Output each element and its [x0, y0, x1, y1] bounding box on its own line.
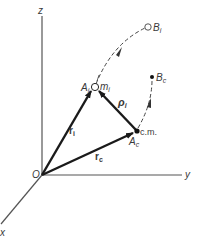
origin-label: O — [32, 169, 40, 180]
Ai-label: Ai — [80, 82, 90, 94]
diagram-canvas: z y x O Ai mi c.m. Ac Bi Bc ri rc ρi — [0, 0, 202, 238]
x-axis-label: x — [0, 227, 6, 238]
y-axis-label: y — [184, 169, 191, 180]
x-axis — [1, 175, 42, 224]
ri-label: ri — [69, 125, 75, 137]
mi-label: mi — [100, 81, 110, 93]
path-particle-to-Bi — [96, 28, 145, 84]
Bc-marker — [150, 75, 154, 79]
diagram: z y x O Ai mi c.m. Ac Bi Bc ri rc ρi — [0, 0, 202, 238]
z-axis-label: z — [37, 5, 43, 16]
Bc-label: Bc — [156, 72, 167, 84]
cm-label: c.m. — [140, 127, 157, 137]
Ac-label: Ac — [128, 136, 140, 148]
vector-rc — [42, 133, 133, 175]
rho-i-label: ρi — [117, 96, 128, 109]
path-Bc-arrowhead — [147, 98, 151, 108]
particle-Ai-marker — [91, 83, 98, 90]
Ai-tick — [97, 75, 99, 81]
path-Bi-arrowhead — [116, 47, 122, 57]
rc-label: rc — [95, 151, 103, 163]
Bi-marker — [145, 24, 151, 30]
cm-Ac-marker — [134, 128, 139, 133]
Bi-label: Bi — [153, 22, 162, 34]
